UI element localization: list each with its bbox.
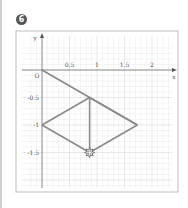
x-tick-label: 1 bbox=[95, 61, 99, 68]
origin-label: O bbox=[35, 72, 40, 79]
x-tick-label: 0.5 bbox=[65, 61, 75, 68]
y-axis-label: y bbox=[32, 34, 37, 42]
y-tick-label: -1 bbox=[33, 121, 39, 128]
x-tick-label: 2 bbox=[150, 61, 154, 68]
x-tick-label: 1.5 bbox=[120, 61, 130, 68]
y-tick-label: -1.5 bbox=[27, 149, 39, 156]
coordinate-plane: 0.511.52-0.5-1-1.5Oxy bbox=[0, 0, 188, 208]
y-tick-label: -0.5 bbox=[27, 94, 39, 101]
star-marker bbox=[85, 148, 95, 158]
